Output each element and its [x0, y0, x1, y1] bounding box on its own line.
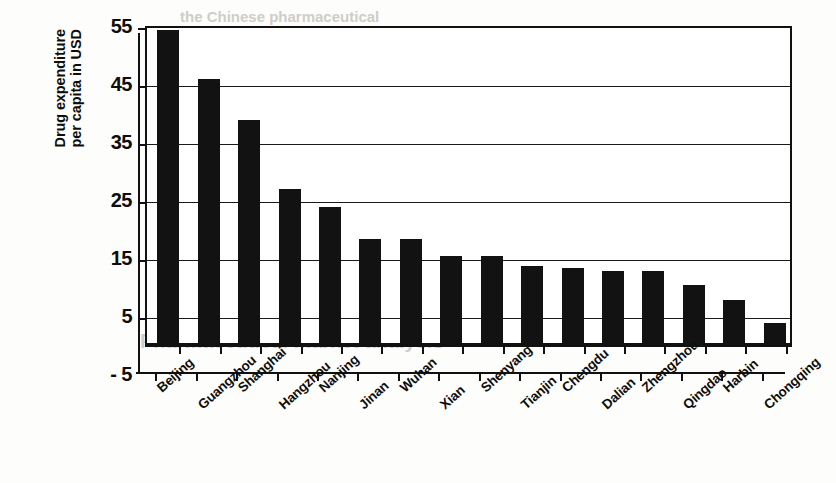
category-label-beijing: Beijing [154, 355, 196, 395]
category-label-qingdao: Qingdao [680, 365, 730, 412]
category-label-chengdu: Chengdu [559, 346, 611, 395]
category-label-shenyang: Shenyang [478, 342, 535, 395]
category-label-zhengzhou: Zhengzhou [639, 337, 701, 395]
category-label-jinan: Jinan [356, 378, 392, 412]
category-label-wuhan: Wuhan [397, 355, 440, 395]
category-label-dalian: Dalian [599, 375, 638, 412]
category-label-tianjin: Tianjin [518, 373, 559, 412]
category-labels: BeijingGuangzhouShanghaiHangzhouNanjingJ… [0, 0, 836, 483]
bar-chart-figure: Drug expenditure per capita in USD - 551… [0, 0, 836, 483]
category-label-chongqing: Chongqing [761, 355, 823, 413]
category-label-xian: Xian [437, 382, 468, 412]
